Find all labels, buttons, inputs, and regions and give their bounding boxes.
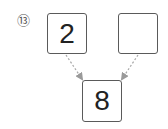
- part-right-answer-box[interactable]: [118, 13, 158, 54]
- part-left-box: 2: [47, 13, 87, 54]
- arrow-right-to-whole: [122, 55, 138, 79]
- arrow-left-to-whole: [66, 55, 82, 79]
- whole-value: 8: [94, 87, 110, 115]
- whole-box: 8: [82, 80, 122, 122]
- part-left-value: 2: [59, 20, 75, 48]
